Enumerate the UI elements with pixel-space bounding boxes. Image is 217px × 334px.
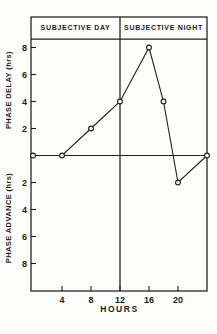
phase-response-chart [0, 0, 217, 334]
x-tick-label: 12 [111, 295, 129, 305]
y-axis-label-phase-delay: PHASE DELAY (hrs) [4, 45, 14, 135]
section-label-subjective-night: SUBJECTIVE NIGHT [120, 23, 207, 33]
x-tick-label: 8 [82, 295, 100, 305]
x-tick-label: 4 [53, 295, 71, 305]
y-tick-label-delay: 2 [15, 124, 27, 134]
y-tick-label-advance: 2 [15, 178, 27, 188]
y-tick-label-advance: 4 [15, 205, 27, 215]
y-tick-label-delay: 4 [15, 97, 27, 107]
data-point [205, 153, 210, 158]
x-axis-label-hours: HOURS [80, 304, 159, 314]
x-tick-label: 16 [140, 295, 158, 305]
data-point [161, 99, 166, 104]
y-axis-label-phase-advance: PHASE ADVANCE (hrs) [4, 165, 14, 271]
data-point [31, 153, 36, 158]
section-label-subjective-day: SUBJECTIVE DAY [31, 23, 120, 33]
data-point [60, 153, 65, 158]
data-point [89, 126, 94, 131]
y-tick-label-advance: 6 [15, 232, 27, 242]
x-tick-label: 20 [169, 295, 187, 305]
data-point [176, 180, 181, 185]
plot-border [31, 17, 207, 291]
y-tick-label-delay: 6 [15, 70, 27, 80]
y-tick-label-advance: 8 [15, 259, 27, 269]
data-point [118, 99, 123, 104]
data-point [147, 45, 152, 50]
phase-response-figure: SUBJECTIVE DAY SUBJECTIVE NIGHT PHASE DE… [0, 0, 217, 334]
y-tick-label-delay: 8 [15, 43, 27, 53]
